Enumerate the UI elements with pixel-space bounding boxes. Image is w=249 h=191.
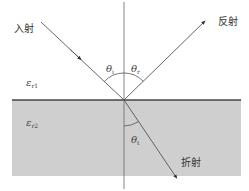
refracted-label: 折射 xyxy=(181,158,201,168)
reflection-refraction-diagram xyxy=(0,0,249,191)
incident-ray xyxy=(41,22,124,100)
transmitted-angle-subscript: t xyxy=(137,139,139,146)
reflected-angle-subscript: r xyxy=(137,68,140,75)
reflected-angle-label: θr xyxy=(131,64,140,75)
incident-label: 入射 xyxy=(14,24,34,34)
medium2-subscript: r2 xyxy=(31,122,38,129)
incident-arrow-icon xyxy=(70,49,80,58)
reflected-ray xyxy=(124,22,204,100)
transmitted-angle-label: θt xyxy=(131,135,139,146)
medium2-region xyxy=(12,100,241,176)
medium1-subscript: r1 xyxy=(31,82,38,89)
medium2-permittivity-label: εr2 xyxy=(26,118,38,129)
incident-angle-label: θi xyxy=(106,64,114,75)
medium1-permittivity-label: εr1 xyxy=(26,78,38,89)
incident-angle-subscript: i xyxy=(112,68,114,75)
reflected-label: 反射 xyxy=(218,17,238,27)
